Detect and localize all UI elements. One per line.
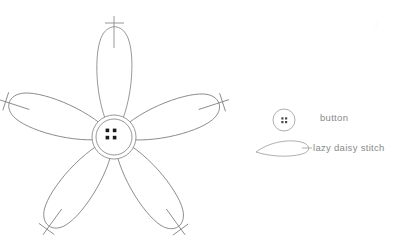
petal-lower-right-tack-crossbar xyxy=(173,224,188,235)
artifact-strokes xyxy=(372,20,390,30)
legend-symbol-group xyxy=(256,109,312,156)
legend-button-hole-top-right xyxy=(285,117,287,119)
legend-button-hole-bottom-right xyxy=(285,121,287,123)
pattern-diagram-canvas: button lazy daisy stitch xyxy=(0,0,409,247)
legend-button-outer-circle xyxy=(273,109,295,131)
legend-petal-outline xyxy=(256,141,309,156)
legend-label-lazy-daisy-stitch: lazy daisy stitch xyxy=(313,143,385,153)
petal-lower-left-tack-crossbar xyxy=(39,223,54,234)
scan-artifact-marks xyxy=(372,20,390,30)
legend-button-hole-bottom-left xyxy=(281,121,283,123)
legend-lazy-daisy-stitch-icon xyxy=(256,141,312,156)
button-hole-bottom-right xyxy=(113,136,117,140)
flower-group xyxy=(0,16,235,245)
flower-center-button xyxy=(92,115,136,159)
daisy-pattern-illustration xyxy=(0,0,409,247)
legend-button-hole-top-left xyxy=(281,117,283,119)
legend-label-button: button xyxy=(320,113,348,123)
petal-lower-left-tack-line xyxy=(43,209,62,235)
button-hole-top-right xyxy=(113,129,117,133)
legend-button-icon xyxy=(273,109,295,131)
button-hole-top-left xyxy=(106,129,110,133)
button-hole-bottom-left xyxy=(106,136,110,140)
